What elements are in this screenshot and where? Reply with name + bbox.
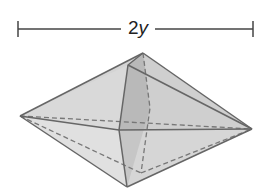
solid-faces	[20, 53, 252, 187]
dimension-coefficient: 2	[128, 17, 139, 38]
dimension-label: 2y	[121, 17, 155, 39]
dimension-variable: y	[139, 17, 149, 38]
edge-front-right	[119, 129, 252, 130]
